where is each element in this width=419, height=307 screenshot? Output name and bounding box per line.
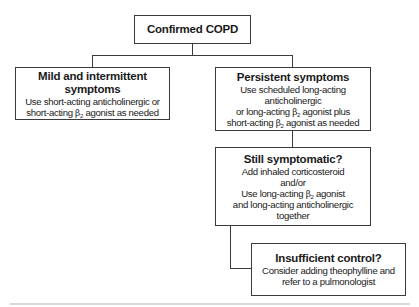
connector-to-insufficient	[230, 268, 251, 269]
node-text: Use scheduled long-acting anticholinergi…	[216, 84, 370, 128]
node-text: Add inhaled corticosteroid and/or Use lo…	[216, 166, 370, 221]
node-persistent-symptoms: Persistent symptoms Use scheduled long-a…	[215, 67, 371, 131]
node-title: Persistent symptoms	[237, 71, 350, 84]
node-title: Still symptomatic?	[244, 153, 343, 166]
node-insufficient-control: Insufficient control? Consider adding th…	[251, 243, 406, 296]
connector-to-persistent	[292, 55, 293, 67]
bottom-divider	[10, 303, 410, 305]
node-text: Use short-acting anticholinergic or shor…	[25, 96, 160, 118]
node-title: Confirmed COPD	[147, 23, 238, 36]
node-still-symptomatic: Still symptomatic? Add inhaled corticost…	[215, 147, 371, 226]
connector-still-down	[230, 225, 231, 269]
connector-persistent-to-still	[292, 130, 293, 147]
node-text: Consider adding theophylline and refer t…	[262, 265, 395, 287]
node-title: Insufficient control?	[275, 252, 381, 265]
node-mild-intermittent: Mild and intermittent symptoms Use short…	[15, 67, 170, 120]
connector-branch-horizontal	[92, 55, 293, 56]
connector-root-down	[192, 43, 193, 55]
connector-to-mild	[92, 55, 93, 67]
node-confirmed-copd: Confirmed COPD	[134, 15, 251, 44]
node-title: Mild and intermittent symptoms	[16, 70, 169, 96]
